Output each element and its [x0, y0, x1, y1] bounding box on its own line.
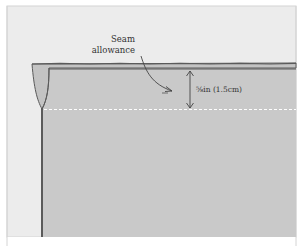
seam-label-line1: Seam [111, 34, 135, 44]
raw-top-edge [32, 63, 296, 64]
fabric-body [42, 68, 296, 237]
bottom-band [7, 237, 296, 246]
measurement-label: ⅝in (1.5cm) [196, 85, 242, 94]
seam-allowance-diagram: Seam allowance ⅝in (1.5cm) [0, 0, 305, 246]
seam-label-line2: allowance [92, 45, 135, 55]
